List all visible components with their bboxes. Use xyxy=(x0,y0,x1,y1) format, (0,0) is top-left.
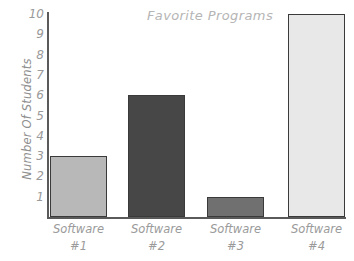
x-axis-label-line1: Software xyxy=(291,222,342,236)
x-axis-category-label: Software#1 xyxy=(40,221,117,254)
y-axis-tick-label: 4 xyxy=(4,130,44,142)
y-axis-tick-label: 10 xyxy=(4,8,44,20)
y-axis-tick-label: 3 xyxy=(4,150,44,162)
x-axis-category-label: Software#3 xyxy=(197,221,274,254)
x-axis-label-line1: Software xyxy=(131,222,182,236)
y-axis-tick-label: 1 xyxy=(4,191,44,203)
x-axis-category-label: Software#2 xyxy=(118,221,195,254)
y-axis-tick-label: 6 xyxy=(4,89,44,101)
bar-chart: Favorite Programs Number Of Students 109… xyxy=(0,0,354,261)
x-axis-label-line1: Software xyxy=(210,222,261,236)
y-axis-tick-label: 8 xyxy=(4,49,44,61)
bar xyxy=(288,14,345,217)
x-axis-label-line2: #2 xyxy=(118,238,195,255)
y-axis-tick-labels: 10987654321 xyxy=(0,0,44,261)
x-axis-label-line1: Software xyxy=(53,222,104,236)
y-axis-tick-label: 9 xyxy=(4,28,44,40)
bar xyxy=(50,156,107,217)
y-axis-tick-label: 5 xyxy=(4,110,44,122)
y-axis-tick-label: 2 xyxy=(4,170,44,182)
x-axis-line xyxy=(47,217,346,219)
bar xyxy=(207,197,264,217)
x-axis-category-labels: Software#1Software#2Software#3Software#4 xyxy=(49,221,346,261)
plot-area xyxy=(49,14,346,217)
x-axis-label-line2: #3 xyxy=(197,238,274,255)
x-axis-label-line2: #1 xyxy=(40,238,117,255)
y-axis-tick-label: 7 xyxy=(4,69,44,81)
x-axis-label-line2: #4 xyxy=(278,238,354,255)
x-axis-category-label: Software#4 xyxy=(278,221,354,254)
bar xyxy=(128,95,185,217)
